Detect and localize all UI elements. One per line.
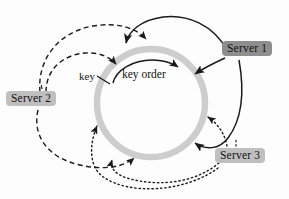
edge-server1-to-ring-upper-right: [195, 58, 225, 74]
node-server-2[interactable]: Server 2: [6, 91, 56, 106]
key-order-label: key order: [122, 68, 166, 80]
edge-server2-to-ring-bottom: [37, 110, 134, 168]
key-label: key: [79, 70, 95, 82]
figure-canvas: key key order Server 1 Server 2 Server 3: [0, 0, 289, 199]
key-space-ring: [97, 49, 205, 157]
node-server-1[interactable]: Server 1: [222, 41, 272, 56]
node-server-3[interactable]: Server 3: [215, 148, 265, 163]
stub-server2-top: [41, 84, 42, 89]
edge-server3-to-ring-bottom: [112, 160, 222, 183]
